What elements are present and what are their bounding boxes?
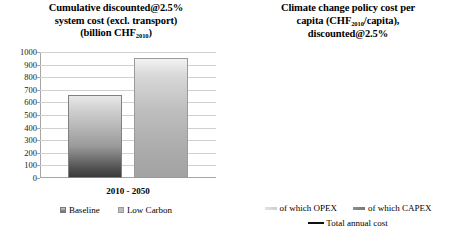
left-x-axis xyxy=(40,177,216,178)
legend-item-low-carbon[interactable]: Low Carbon xyxy=(118,205,172,215)
left-y-tick-label: 400 xyxy=(24,123,37,132)
legend-swatch-low-carbon-icon xyxy=(118,207,124,213)
legend-swatch-opex-icon xyxy=(265,207,277,210)
right-title-line-3: discounted@2.5% xyxy=(232,28,464,41)
left-y-tickmark xyxy=(37,140,40,141)
chart-panel-left: Cumulative discounted@2.5% system cost (… xyxy=(0,0,232,239)
left-y-tick-label: 200 xyxy=(24,149,37,158)
left-title-line-3: (billion CHF2010) xyxy=(0,27,232,41)
legend-item-opex[interactable]: of which OPEX xyxy=(265,203,338,213)
legend-swatch-capex-icon xyxy=(353,207,365,210)
left-y-tick-label: 1000 xyxy=(20,48,37,57)
left-y-tickmark xyxy=(37,178,40,179)
left-y-tick-label: 900 xyxy=(24,60,37,69)
chart-panel-right: Climate change policy cost per capita (C… xyxy=(232,0,464,239)
legend-item-baseline[interactable]: Baseline xyxy=(60,205,100,215)
left-y-tickmark xyxy=(37,165,40,166)
left-y-tick-label: 500 xyxy=(24,111,37,120)
left-y-tick-label: 600 xyxy=(24,98,37,107)
left-gridline xyxy=(40,52,216,53)
left-gridline xyxy=(40,102,216,103)
left-y-tickmark xyxy=(37,153,40,154)
right-title-line-1: Climate change policy cost per xyxy=(232,2,464,15)
left-y-tick-label: 300 xyxy=(24,136,37,145)
left-category-label: 2010 - 2050 xyxy=(40,186,216,196)
right-title-subscript: 2010 xyxy=(351,20,364,27)
left-gridline xyxy=(40,77,216,78)
left-y-tick-label: 100 xyxy=(24,161,37,170)
right-legend-row-1: of which OPEX of which CAPEX xyxy=(236,203,460,213)
left-y-tickmark xyxy=(37,77,40,78)
right-title-line-2: capita (CHF2010/capita), xyxy=(232,15,464,29)
left-legend: Baseline Low Carbon xyxy=(16,205,216,215)
left-y-tick-label: 700 xyxy=(24,86,37,95)
left-gridline xyxy=(40,128,216,129)
left-title-line-1: Cumulative discounted@2.5% xyxy=(0,2,232,15)
right-legend-row-2: Total annual cost xyxy=(236,218,460,228)
left-y-tickmark xyxy=(37,102,40,103)
left-title-line-3-text: (billion CHF xyxy=(80,27,136,38)
left-title-subscript: 2010 xyxy=(136,32,149,39)
left-gridline xyxy=(40,115,216,116)
bar-baseline xyxy=(68,95,122,178)
left-title-line-3-close: ) xyxy=(148,27,151,38)
legend-label-opex: of which OPEX xyxy=(280,203,338,213)
legend-swatch-total-line-icon xyxy=(308,222,324,225)
left-gridline xyxy=(40,153,216,154)
left-y-tickmark xyxy=(37,115,40,116)
left-y-tickmark xyxy=(37,52,40,53)
legend-item-total-annual-cost[interactable]: Total annual cost xyxy=(308,218,387,228)
left-gridline xyxy=(40,65,216,66)
left-plot-area: 01002003004005006007008009001000 xyxy=(40,52,216,178)
left-chart-title: Cumulative discounted@2.5% system cost (… xyxy=(0,2,232,41)
left-gridline xyxy=(40,140,216,141)
left-y-tickmark xyxy=(37,90,40,91)
legend-label-low-carbon: Low Carbon xyxy=(127,205,172,215)
right-chart-title: Climate change policy cost per capita (C… xyxy=(232,2,464,41)
right-title-line-2-close: /capita), xyxy=(364,15,400,26)
legend-label-total-annual-cost: Total annual cost xyxy=(326,218,387,228)
legend-label-baseline: Baseline xyxy=(69,205,100,215)
figure-container: Cumulative discounted@2.5% system cost (… xyxy=(0,0,464,239)
left-y-tickmark xyxy=(37,65,40,66)
left-y-tickmark xyxy=(37,128,40,129)
legend-label-capex: of which CAPEX xyxy=(368,203,432,213)
left-y-tick-label: 800 xyxy=(24,73,37,82)
legend-item-capex[interactable]: of which CAPEX xyxy=(353,203,432,213)
left-y-tick-label: 0 xyxy=(33,174,37,183)
right-title-line-2-text: capita (CHF xyxy=(297,15,352,26)
bar-low-carbon xyxy=(134,58,188,178)
left-gridline xyxy=(40,90,216,91)
left-title-line-2: system cost (excl. transport) xyxy=(0,15,232,28)
left-gridline xyxy=(40,165,216,166)
legend-swatch-baseline-icon xyxy=(60,207,66,213)
